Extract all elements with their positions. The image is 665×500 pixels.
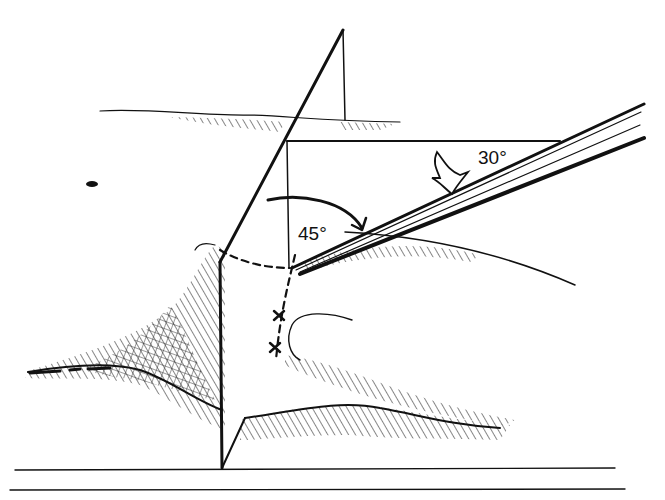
baseline-lines [10,468,625,490]
x-marker [270,343,280,352]
eye-outline [289,314,352,360]
upper-skin-line [100,110,400,132]
dashed-incision-path [220,250,295,360]
vertical-sagittal-plane [220,30,345,468]
diagram-canvas: 30° 45° [0,0,665,500]
angle-label-45: 45° [298,223,327,244]
x-markers [270,311,284,352]
small-mark [86,181,98,187]
needle-angle-diagram: 30° 45° [0,0,665,500]
angle-label-30: 30° [478,147,507,168]
